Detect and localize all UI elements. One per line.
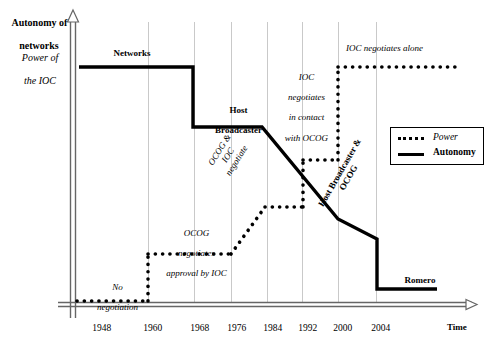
- legend-item-autonomy: Autonomy: [391, 147, 483, 162]
- x-tick-1992: 1992: [286, 312, 320, 343]
- label-networks: Networks: [92, 48, 172, 58]
- x-tick-label: 1976: [227, 323, 246, 333]
- y-axis-subtitle-line1: Power of: [22, 52, 58, 63]
- y-axis-subtitle: Power of the IOC: [4, 41, 66, 97]
- label-ioc-contact-line3: in contact: [289, 112, 325, 122]
- label-no-negotiation-line1: No: [112, 282, 123, 292]
- legend-swatch-dotted-icon: [398, 137, 424, 143]
- x-tick-2000: 2000: [321, 312, 355, 343]
- label-ioc-contact-line4: with OCOG: [285, 133, 328, 143]
- label-ocog-approval-line3: approval by IOC: [166, 268, 227, 278]
- x-tick-label: 1984: [263, 323, 282, 333]
- label-ioc-negotiates-in-contact: IOC negotiates in contact with OCOG: [264, 62, 340, 153]
- label-ocog-negotiates-approval: OCOG negotiates approval by IOC: [150, 218, 234, 289]
- label-host-broadcaster-line1: Host: [230, 105, 248, 115]
- chart-container: Autonomy of networks Power of the IOC 19…: [0, 0, 494, 343]
- y-axis-title-line1: Autonomy of: [11, 17, 67, 28]
- label-ioc-negotiates-alone: IOC negotiates alone: [346, 43, 476, 53]
- x-tick-1968: 1968: [178, 312, 212, 343]
- legend-label-power: Power: [433, 132, 458, 142]
- label-romero: Romero: [392, 275, 448, 285]
- x-tick-2004: 2004: [359, 312, 393, 343]
- label-ioc-contact-line2: negotiates: [288, 92, 325, 102]
- x-tick-label: 1992: [298, 323, 317, 333]
- x-tick-label: 2000: [333, 323, 352, 333]
- x-tick-label: 1968: [190, 323, 209, 333]
- label-ocog-approval-line2: negotiates: [178, 248, 215, 258]
- x-tick-label: 1960: [143, 323, 162, 333]
- legend-label-autonomy: Autonomy: [433, 147, 476, 157]
- legend-swatch-solid-icon: [398, 153, 424, 156]
- legend: Power Autonomy: [390, 127, 484, 165]
- x-tick-label: 2004: [371, 323, 390, 333]
- x-tick-1984: 1984: [251, 312, 285, 343]
- label-no-negotiation-line2: negotiation: [97, 302, 138, 312]
- legend-item-power: Power: [391, 132, 483, 147]
- x-tick-label: 1948: [92, 323, 111, 333]
- x-axis-title: Time: [447, 322, 467, 332]
- x-tick-1976: 1976: [215, 312, 249, 343]
- y-axis-subtitle-line2: the IOC: [24, 75, 56, 86]
- label-ocog-approval-line1: OCOG: [184, 228, 210, 238]
- label-ioc-contact-line1: IOC: [299, 72, 315, 82]
- label-no-negotiation: No negotiation: [76, 272, 150, 322]
